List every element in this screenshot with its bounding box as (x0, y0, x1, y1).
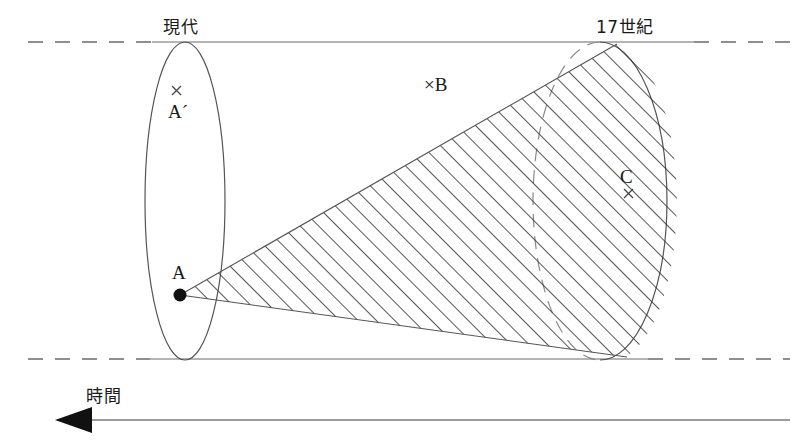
time-arrow-head-icon (55, 407, 92, 433)
label-point-c: C (620, 167, 633, 186)
diagram-canvas: 現代 17世紀 時間 A A´ ×B C (0, 0, 801, 443)
cone-hatch-fill (150, 30, 690, 380)
label-present-day: 現代 (163, 19, 198, 36)
light-cone-diagram (0, 0, 801, 443)
label-17th-century: 17世紀 (596, 19, 654, 36)
cone-body (150, 30, 690, 380)
point-b-text: B (435, 74, 448, 95)
point-b-cross-icon: × (424, 74, 435, 95)
point-A-dot (174, 289, 187, 302)
label-time-axis: 時間 (86, 388, 121, 405)
near-ellipse (145, 42, 225, 360)
time-axis-arrow (55, 407, 790, 433)
label-point-b: ×B (424, 75, 447, 94)
label-point-a: A (172, 263, 186, 282)
label-point-a-prime: A´ (168, 102, 188, 121)
point-A-prime-cross (172, 86, 181, 95)
